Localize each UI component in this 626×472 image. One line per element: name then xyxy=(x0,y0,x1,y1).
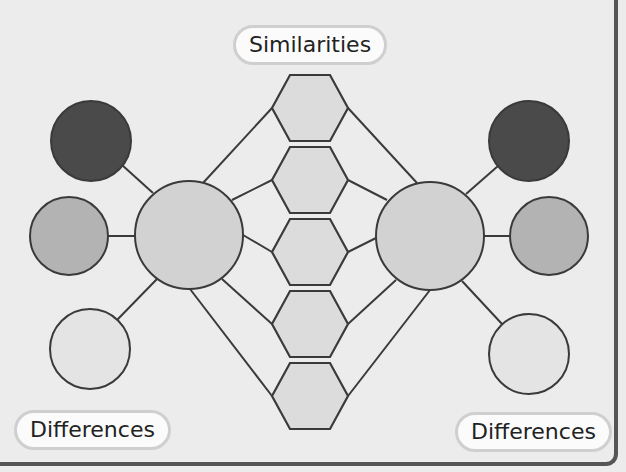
left-difference-circle-medium[interactable] xyxy=(30,197,108,275)
right-difference-circle-light[interactable] xyxy=(489,314,569,394)
left-difference-circle-light[interactable] xyxy=(50,309,130,389)
right-difference-circle-dark[interactable] xyxy=(489,101,569,181)
hexagon-similarity-2[interactable] xyxy=(272,147,348,213)
hexagon-similarity-3[interactable] xyxy=(272,219,348,285)
left-difference-circle-dark[interactable] xyxy=(51,101,131,181)
similarity-hexagons xyxy=(272,75,348,429)
left-differences-label: Differences xyxy=(14,410,171,450)
hexagon-similarity-4[interactable] xyxy=(272,291,348,357)
hexagon-similarity-1[interactable] xyxy=(272,75,348,141)
right-topic-circle[interactable] xyxy=(376,182,484,290)
right-difference-circles xyxy=(489,101,588,394)
left-difference-circles xyxy=(30,101,131,389)
left-topic-circle[interactable] xyxy=(135,181,243,289)
right-difference-circle-medium[interactable] xyxy=(510,197,588,275)
hexagon-similarity-5[interactable] xyxy=(272,363,348,429)
similarities-label: Similarities xyxy=(233,25,387,65)
right-differences-label: Differences xyxy=(455,412,612,452)
similarities-differences-diagram xyxy=(0,0,626,472)
